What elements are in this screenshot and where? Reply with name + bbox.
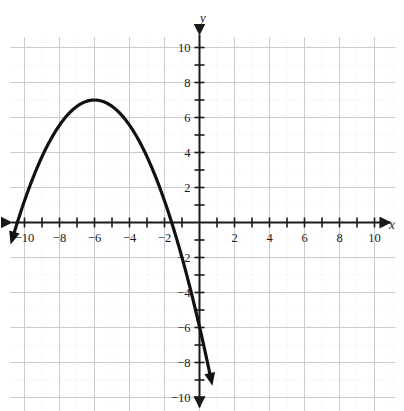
parabola-curve bbox=[5, 100, 217, 387]
x-tick-label: 4 bbox=[266, 231, 273, 245]
y-tick-label: 4 bbox=[184, 146, 191, 160]
x-tick-label: 6 bbox=[301, 231, 307, 245]
y-tick-label: −8 bbox=[177, 356, 190, 370]
x-tick-label: 10 bbox=[368, 231, 381, 245]
x-tick-label: 2 bbox=[231, 231, 237, 245]
graph-figure: −10−8−6−4−2246810 108642−2−4−6−8−10 x y bbox=[0, 0, 404, 411]
curve-arrowhead bbox=[204, 372, 217, 387]
y-tick-label: 10 bbox=[178, 41, 191, 55]
x-tick-label: −8 bbox=[53, 231, 66, 245]
minor-gridlines bbox=[11, 37, 396, 411]
major-gridlines bbox=[11, 37, 396, 411]
y-tick-label: −10 bbox=[171, 391, 191, 405]
y-tick-label: 8 bbox=[184, 76, 190, 90]
x-tick-label: −4 bbox=[123, 231, 137, 245]
x-tick-label: −6 bbox=[88, 231, 101, 245]
x-tick-label: −2 bbox=[158, 231, 171, 245]
y-tick-label: 2 bbox=[184, 181, 190, 195]
coordinate-plane-svg: −10−8−6−4−2246810 108642−2−4−6−8−10 x y bbox=[0, 0, 404, 411]
x-tick-label: 8 bbox=[336, 231, 342, 245]
x-tick-label: −10 bbox=[15, 231, 35, 245]
x-axis-label: x bbox=[388, 217, 395, 232]
x-axis-tick-labels: −10−8−6−4−2246810 bbox=[15, 231, 381, 245]
y-tick-label: 6 bbox=[184, 111, 190, 125]
y-tick-label: −6 bbox=[177, 321, 190, 335]
y-axis-label: y bbox=[198, 10, 206, 25]
